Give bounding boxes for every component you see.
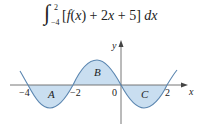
tick-label-2: 2: [165, 87, 170, 98]
y-axis-arrow-icon: [119, 40, 124, 47]
region-label-c: C: [141, 88, 149, 100]
tick-label-neg2: −2: [70, 87, 81, 98]
tick-label-0: 0: [112, 87, 117, 98]
tick-label-neg4: −4: [19, 87, 30, 98]
x-axis-arrow-icon: [181, 83, 188, 88]
x-axis-label: x: [188, 86, 194, 97]
region-label-a: A: [47, 88, 55, 100]
y-axis-label: y: [111, 40, 117, 51]
region-label-b: B: [94, 66, 101, 78]
function-graph: y x −4 −2 0 2 A B C: [0, 0, 201, 126]
